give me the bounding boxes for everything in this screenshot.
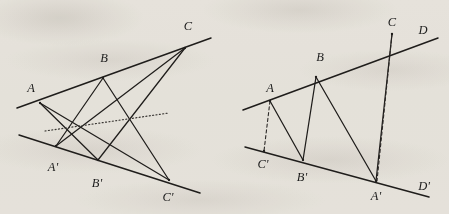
label-left-C: C xyxy=(184,20,192,33)
right-upper-line xyxy=(243,38,438,110)
segment-A-Bprime xyxy=(270,101,303,160)
vertex-C xyxy=(184,47,186,49)
left-diagram xyxy=(17,38,211,193)
vertex-Bprime xyxy=(302,159,304,161)
right-diagram xyxy=(243,33,438,197)
label-left-A: A xyxy=(27,82,35,95)
dashed-segment-A-Cprime xyxy=(264,101,270,151)
vertex-B xyxy=(102,77,104,79)
vertex-B xyxy=(315,76,317,78)
label-right-C: C xyxy=(388,16,396,29)
label-right-D-prime: D' xyxy=(418,180,430,193)
vertex-A xyxy=(39,102,41,104)
segment-C-Aprime xyxy=(376,34,392,181)
label-left-B: B xyxy=(100,52,108,65)
geometry-figure xyxy=(0,0,449,214)
label-right-D: D xyxy=(418,24,427,37)
label-right-B-prime: B' xyxy=(297,171,307,184)
vertex-Aprime xyxy=(55,145,57,147)
vertex-C xyxy=(391,33,393,35)
vertex-Cprime xyxy=(263,150,265,152)
vertex-Cprime xyxy=(168,179,170,181)
vertex-Bprime xyxy=(97,159,99,161)
left-upper-line xyxy=(17,38,211,108)
right-dashed-segments xyxy=(264,34,392,181)
vertex-Aprime xyxy=(375,180,377,182)
label-right-B: B xyxy=(316,51,324,64)
pappus-dotted-line xyxy=(45,113,169,131)
segment-B-Bprime xyxy=(303,77,316,160)
segment-B-Aprime xyxy=(316,77,376,181)
vertex-A xyxy=(269,100,271,102)
right-vertex-dots xyxy=(263,33,393,182)
label-right-A-prime: A' xyxy=(371,190,381,203)
label-right-C-prime: C' xyxy=(257,158,268,171)
label-left-C-prime: C' xyxy=(162,191,173,204)
label-left-A-prime: A' xyxy=(48,161,58,174)
left-lower-line xyxy=(19,135,200,193)
label-left-B-prime: B' xyxy=(92,177,102,190)
label-right-A: A xyxy=(266,82,274,95)
right-lower-line xyxy=(245,147,429,197)
figure-page: A B C A' B' C' A B C D C' B' A' D' xyxy=(0,0,449,214)
